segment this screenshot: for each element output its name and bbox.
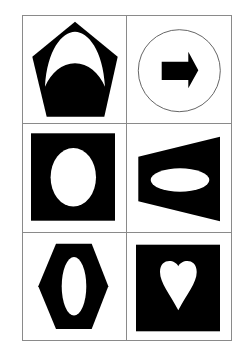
narrow-vertical-ellipse-cutout bbox=[62, 257, 87, 316]
vertical-ellipse-cutout bbox=[51, 148, 96, 207]
cell-r3-c2 bbox=[136, 245, 220, 332]
horizontal-ellipse-cutout bbox=[151, 168, 210, 191]
cell-r2-c2 bbox=[138, 137, 220, 222]
shape-grid-figure bbox=[0, 0, 247, 356]
cell-r1-c1 bbox=[32, 22, 117, 117]
cell-r3-c1 bbox=[38, 244, 108, 329]
cell-r1-c2 bbox=[138, 30, 220, 112]
cell-r2-c1 bbox=[31, 133, 115, 220]
